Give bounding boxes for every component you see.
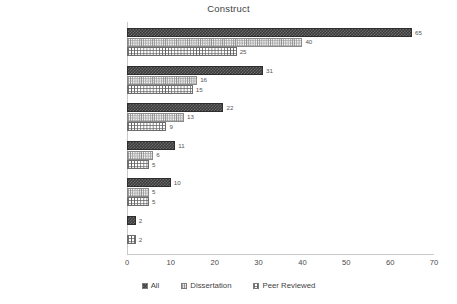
bar-row: 6	[127, 151, 434, 160]
bar-all[interactable]	[127, 178, 171, 187]
bar-dissertation[interactable]	[127, 38, 302, 47]
bar-value-label: 9	[169, 123, 172, 130]
bar-value-label: 15	[196, 86, 203, 93]
x-tick-label: 0	[125, 258, 129, 267]
bar-value-label: 10	[174, 179, 181, 186]
legend-label: Peer Reviewed	[262, 281, 315, 290]
bar-row: 5	[127, 160, 434, 169]
x-tick-label: 70	[430, 258, 438, 267]
legend-swatch-icon	[253, 283, 259, 289]
bar-value-label: 16	[200, 76, 207, 83]
bar-peer-reviewed[interactable]	[127, 197, 149, 206]
bar-value-label: 65	[415, 29, 422, 36]
bar-row: 13	[127, 113, 434, 122]
x-tick-label: 60	[386, 258, 394, 267]
bar-all[interactable]	[127, 28, 412, 37]
bar-row: 16	[127, 76, 434, 85]
legend-item-all[interactable]: All	[142, 281, 160, 290]
chart-title: Construct	[0, 3, 457, 14]
bar-value-label: 31	[266, 67, 273, 74]
bar-row: 40	[127, 38, 434, 47]
bar-peer-reviewed[interactable]	[127, 160, 149, 169]
bar-all[interactable]	[127, 141, 175, 150]
bar-row	[127, 226, 434, 235]
bar-value-label: 5	[152, 198, 155, 205]
bar-peer-reviewed[interactable]	[127, 47, 237, 56]
bar-row: 15	[127, 85, 434, 94]
bar-peer-reviewed[interactable]	[127, 85, 193, 94]
bar-value-label: 40	[305, 38, 312, 45]
x-tick-label: 50	[342, 258, 350, 267]
bar-value-label: 2	[139, 217, 142, 224]
bar-all[interactable]	[127, 66, 263, 75]
bar-value-label: 5	[152, 188, 155, 195]
legend-item-peer-reviewed[interactable]: Peer Reviewed	[253, 281, 315, 290]
bar-value-label: 25	[240, 48, 247, 55]
legend-swatch-icon	[181, 283, 187, 289]
bar-value-label: 22	[226, 104, 233, 111]
bar-row: 2	[127, 235, 434, 244]
bar-row: 2	[127, 216, 434, 225]
plot-area: Content Knowledge654025General Teaching …	[127, 22, 434, 255]
x-tick-label: 30	[254, 258, 262, 267]
legend-swatch-icon	[142, 283, 148, 289]
bar-dissertation[interactable]	[127, 188, 149, 197]
bar-chart: Construct Content Knowledge654025General…	[0, 0, 457, 304]
bar-dissertation[interactable]	[127, 151, 153, 160]
bar-row: 10	[127, 178, 434, 187]
bar-all[interactable]	[127, 103, 223, 112]
bar-row: 31	[127, 66, 434, 75]
bar-dissertation[interactable]	[127, 76, 197, 85]
bar-value-label: 5	[152, 161, 155, 168]
bar-row: 25	[127, 47, 434, 56]
bar-value-label: 13	[187, 113, 194, 120]
bar-row: 65	[127, 28, 434, 37]
bar-value-label: 2	[139, 236, 142, 243]
bar-value-label: 6	[156, 151, 159, 158]
bar-row: 11	[127, 141, 434, 150]
chart-legend: AllDissertationPeer Reviewed	[0, 281, 457, 290]
bar-all[interactable]	[127, 216, 136, 225]
bar-row: 5	[127, 197, 434, 206]
legend-label: All	[151, 281, 160, 290]
bar-peer-reviewed[interactable]	[127, 122, 166, 131]
bar-row: 9	[127, 122, 434, 131]
bar-row: 5	[127, 188, 434, 197]
legend-label: Dissertation	[190, 281, 231, 290]
x-tick-label: 40	[298, 258, 306, 267]
legend-item-dissertation[interactable]: Dissertation	[181, 281, 231, 290]
x-tick-label: 20	[210, 258, 218, 267]
x-tick-label: 10	[167, 258, 175, 267]
bar-row: 22	[127, 103, 434, 112]
bar-dissertation[interactable]	[127, 113, 184, 122]
bar-peer-reviewed[interactable]	[127, 235, 136, 244]
bar-value-label: 11	[178, 142, 184, 149]
